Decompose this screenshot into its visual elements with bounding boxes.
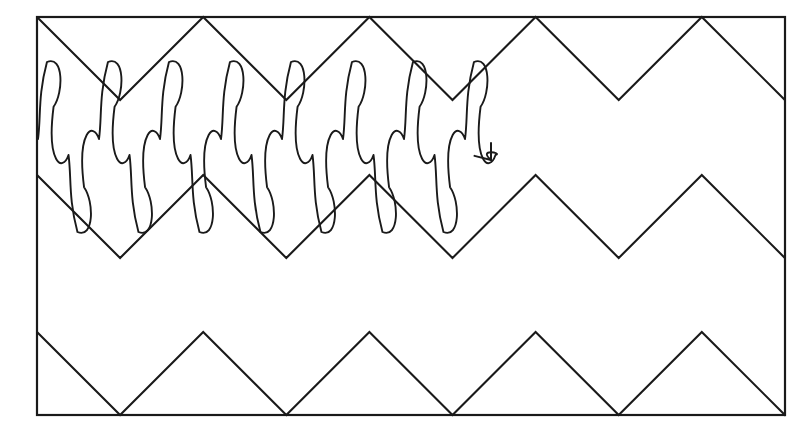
figure-root [0, 0, 809, 440]
line-drawing-canvas [0, 0, 809, 440]
